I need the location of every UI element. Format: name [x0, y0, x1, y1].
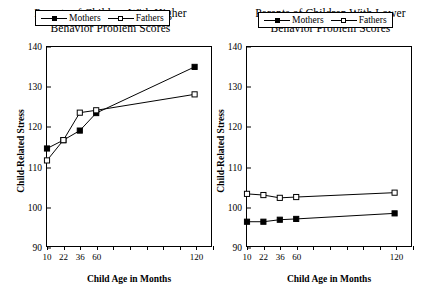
x-tick-mark-right-6 [347, 246, 348, 250]
series-line-left-fathers [47, 94, 195, 160]
x-tick-mark-right-8 [380, 246, 381, 250]
series-canvas-left [47, 47, 211, 246]
data-point-right-mothers-36 [277, 217, 282, 222]
x-tick-label-left-36: 36 [76, 252, 85, 262]
x-tick-mark-left-3 [97, 246, 98, 250]
data-point-left-fathers-60 [94, 108, 99, 113]
legend-label-mothers-left: Mothers [69, 13, 101, 23]
x-tick-mark-left-6 [147, 246, 148, 250]
data-point-right-fathers-60 [294, 194, 299, 199]
x-tick-mark-right-9 [396, 246, 397, 250]
x-tick-label-right-22: 22 [259, 252, 268, 262]
x-tick-label-right-120: 120 [390, 252, 404, 262]
data-point-right-fathers-120 [392, 190, 397, 195]
y-tick-mark-right-110 [247, 167, 251, 168]
x-tick-mark-right-1 [264, 246, 265, 250]
y-tick-mark-left-100 [47, 207, 51, 208]
legend-entry-fathers-right: Fathers [331, 15, 387, 25]
data-point-left-fathers-22 [61, 138, 66, 143]
data-point-right-fathers-10 [244, 191, 249, 196]
plot-area-left: 9010011012013014010223660120 [46, 46, 212, 247]
data-point-right-mothers-22 [261, 219, 266, 224]
y-tick-mark-right-100 [247, 207, 251, 208]
y-tick-label-left-120: 120 [28, 122, 47, 132]
x-tick-mark-left-2 [80, 246, 81, 250]
data-point-right-fathers-22 [261, 192, 266, 197]
x-tick-label-right-10: 10 [243, 252, 252, 262]
x-tick-mark-right-10 [413, 246, 414, 250]
x-tick-mark-left-9 [196, 246, 197, 250]
legend-label-mothers-right: Mothers [292, 15, 324, 25]
series-line-right-mothers [247, 213, 395, 221]
y-tick-label-left-100: 100 [28, 203, 47, 213]
data-point-right-fathers-36 [277, 195, 282, 200]
x-tick-label-right-60: 60 [292, 252, 301, 262]
y-tick-label-right-140: 140 [228, 42, 247, 52]
x-tick-label-left-120: 120 [190, 252, 204, 262]
data-point-right-mothers-60 [294, 216, 299, 221]
x-axis-label-right: Child Age in Months [246, 274, 412, 284]
y-tick-mark-right-140 [247, 47, 251, 48]
y-tick-label-left-140: 140 [28, 42, 47, 52]
x-tick-label-left-10: 10 [43, 252, 52, 262]
data-point-right-mothers-10 [244, 219, 249, 224]
legend-marker-open-square-icon [108, 14, 134, 23]
panel-higher-behavior-problem-scores: Parents of Children With Higher Behavior… [0, 0, 219, 298]
x-tick-mark-left-10 [213, 246, 214, 250]
series-canvas-right [247, 47, 411, 246]
legend-entry-mothers-left: Mothers [41, 13, 101, 23]
legend-right: Mothers Fathers [258, 12, 393, 28]
x-tick-mark-left-1 [64, 246, 65, 250]
x-tick-mark-right-4 [313, 246, 314, 250]
data-point-left-mothers-36 [77, 128, 82, 133]
series-line-left-mothers [47, 67, 195, 149]
x-tick-mark-right-7 [363, 246, 364, 250]
y-tick-mark-right-120 [247, 127, 251, 128]
y-tick-mark-right-130 [247, 87, 251, 88]
data-point-left-mothers-10 [44, 146, 49, 151]
x-tick-mark-right-5 [330, 246, 331, 250]
x-tick-mark-left-4 [113, 246, 114, 250]
data-point-right-mothers-120 [392, 211, 397, 216]
x-axis-label-left: Child Age in Months [46, 274, 212, 284]
plot-area-right: 9010011012013014010223660120 [246, 46, 412, 247]
legend-marker-filled-square-icon [41, 14, 67, 23]
x-tick-label-left-22: 22 [59, 252, 68, 262]
series-line-right-fathers [247, 193, 395, 198]
legend-left: Mothers Fathers [35, 10, 170, 26]
x-tick-mark-left-0 [47, 246, 48, 250]
x-tick-label-left-60: 60 [92, 252, 101, 262]
legend-marker-filled-square-icon [264, 16, 290, 25]
y-tick-mark-left-110 [47, 167, 51, 168]
x-tick-mark-right-0 [247, 246, 248, 250]
legend-entry-fathers-left: Fathers [108, 13, 164, 23]
y-tick-label-right-130: 130 [228, 82, 247, 92]
panel-lower-behavior-problem-scores: Parents of Children With Lower Behavior … [220, 0, 439, 298]
x-tick-mark-right-2 [280, 246, 281, 250]
data-point-left-fathers-120 [192, 92, 197, 97]
y-tick-label-right-110: 110 [228, 163, 247, 173]
y-axis-label-right: Child-Related Stress [216, 91, 226, 211]
x-tick-mark-left-7 [163, 246, 164, 250]
data-point-left-mothers-120 [192, 64, 197, 69]
y-tick-label-left-110: 110 [28, 163, 47, 173]
legend-marker-open-square-icon [331, 16, 357, 25]
y-tick-mark-left-120 [47, 127, 51, 128]
x-tick-label-right-36: 36 [276, 252, 285, 262]
y-tick-label-right-100: 100 [228, 203, 247, 213]
figure-two-panel-line-charts: Parents of Children With Higher Behavior… [0, 0, 439, 298]
y-tick-label-right-120: 120 [228, 122, 247, 132]
x-tick-mark-left-5 [130, 246, 131, 250]
y-tick-mark-left-130 [47, 87, 51, 88]
x-tick-mark-right-3 [297, 246, 298, 250]
legend-entry-mothers-right: Mothers [264, 15, 324, 25]
y-axis-label-left: Child-Related Stress [16, 91, 26, 211]
y-tick-mark-left-140 [47, 47, 51, 48]
legend-label-fathers-right: Fathers [359, 15, 387, 25]
data-point-left-fathers-36 [77, 110, 82, 115]
y-tick-label-left-130: 130 [28, 82, 47, 92]
legend-label-fathers-left: Fathers [136, 13, 164, 23]
x-tick-mark-left-8 [180, 246, 181, 250]
